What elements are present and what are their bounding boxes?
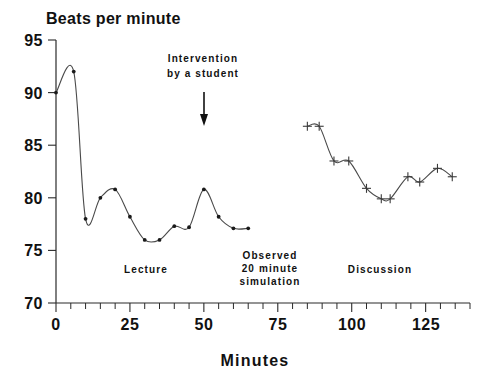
y-tick-label-75: 75 [24,242,43,259]
chart-page: 95 90 85 80 75 70 0 25 50 75 100 125 Bea… [0,0,493,380]
x-tick-label-50: 50 [195,316,214,333]
data-point [113,187,117,191]
data-point [187,225,191,229]
y-tick-label-80: 80 [24,190,43,207]
x-tick-label-25: 25 [121,316,140,333]
segment-label-discussion: Discussion [348,264,412,275]
series-discussion [303,122,457,204]
data-point [303,122,312,131]
intervention-label-line1: Intervention [168,53,238,64]
series-lecture [54,65,250,242]
y-tick-label-70: 70 [24,295,43,312]
segment-label-observed-line3: simulation [239,276,300,287]
x-axis-labels: 0 25 50 75 100 125 [51,316,440,333]
segment-label-observed-line2: 20 minute [242,263,299,274]
chart-title: Beats per minute [46,10,181,27]
intervention-arrow-head [200,114,208,126]
data-point [128,215,132,219]
data-point [172,224,176,228]
data-point [377,194,386,203]
x-tick-label-100: 100 [338,316,366,333]
x-tick-label-75: 75 [269,316,288,333]
data-point [415,178,424,187]
heart-rate-chart: 95 90 85 80 75 70 0 25 50 75 100 125 Bea… [0,0,493,380]
data-point [158,238,162,242]
data-point [232,226,236,230]
data-point [98,196,102,200]
data-point [329,156,338,165]
data-point [217,215,221,219]
data-point [54,91,58,95]
y-tick-label-85: 85 [24,137,43,154]
data-point [315,122,324,131]
x-axis-title: Minutes [221,352,290,369]
intervention-annotation: Intervention by a student [167,53,239,126]
y-axis-labels: 95 90 85 80 75 70 [24,32,43,312]
segment-label-lecture: Lecture [124,264,168,275]
data-point [72,70,76,74]
y-tick-label-90: 90 [24,85,43,102]
data-point [433,164,442,173]
segment-labels: Lecture Observed 20 minute simulation Di… [124,250,412,287]
intervention-label-line2: by a student [167,68,239,79]
x-tick-label-0: 0 [51,316,60,333]
segment-label-observed-line1: Observed [243,250,298,261]
data-point [143,238,147,242]
x-axis-ticks [56,303,470,312]
x-tick-label-125: 125 [412,316,440,333]
curve-discussion [307,124,452,201]
data-point [246,226,250,230]
data-point [84,217,88,221]
y-axis-ticks [48,40,56,303]
y-tick-label-95: 95 [24,32,43,49]
data-point [202,187,206,191]
